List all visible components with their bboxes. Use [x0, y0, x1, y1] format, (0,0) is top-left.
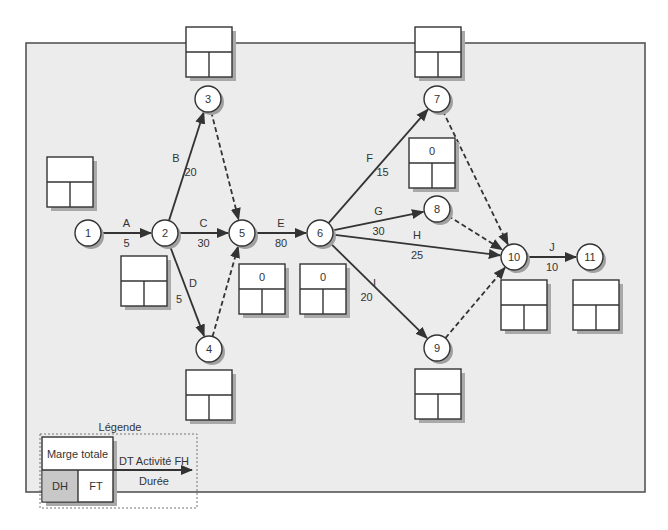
legend-arrow-top: DT Activité FH — [119, 455, 189, 467]
legend-ft: FT — [89, 480, 103, 492]
activity-duration: 5 — [123, 237, 129, 249]
activity-duration: 15 — [376, 166, 388, 178]
node-box-3 — [186, 27, 236, 81]
node-box-8: 0 — [409, 138, 459, 192]
activity-name: G — [374, 205, 383, 217]
node-number: 4 — [206, 343, 212, 355]
legend-dh: DH — [52, 480, 68, 492]
node-number: 10 — [508, 251, 520, 263]
activity-duration: 80 — [275, 237, 287, 249]
node-box-7 — [415, 27, 465, 81]
activity-name: B — [172, 152, 179, 164]
node-box-10 — [501, 280, 551, 334]
activity-name: F — [366, 152, 373, 164]
node-number: 8 — [434, 203, 440, 215]
activity-name: C — [200, 217, 208, 229]
marge-totale-value: 0 — [259, 271, 265, 283]
activity-duration: 5 — [176, 293, 182, 305]
marge-totale-value: 0 — [429, 145, 435, 157]
node-box-5: 0 — [239, 264, 289, 318]
activity-name: I — [373, 277, 376, 289]
node-number: 11 — [584, 251, 595, 263]
legend-title: Légende — [99, 421, 142, 433]
activity-duration: 30 — [372, 225, 384, 237]
node-box-1 — [47, 157, 97, 211]
activity-duration: 25 — [411, 249, 423, 261]
node-box-6: 0 — [300, 264, 350, 318]
activity-duration: 10 — [546, 261, 558, 273]
node-box-2 — [121, 256, 171, 310]
node-box-9 — [415, 369, 465, 423]
node-number: 2 — [162, 227, 168, 239]
legend-arrow-bottom: Durée — [139, 475, 169, 487]
activity-duration: 20 — [184, 166, 196, 178]
marge-totale-value: 0 — [320, 271, 326, 283]
activity-duration: 30 — [197, 237, 209, 249]
activity-name: A — [123, 217, 131, 229]
legend-marge-totale: Marge totale — [47, 448, 108, 460]
node-box-11 — [573, 280, 623, 334]
activity-name: H — [413, 229, 421, 241]
node-number: 6 — [317, 227, 323, 239]
activity-duration: 20 — [360, 291, 372, 303]
node-number: 9 — [434, 342, 440, 354]
node-number: 3 — [205, 93, 211, 105]
activity-name: E — [277, 217, 284, 229]
pert-network-diagram: A5B20C30D5E80F15G30H25I20J10 000 1234567… — [0, 0, 668, 530]
activity-name: D — [189, 277, 197, 289]
node-box-4 — [186, 370, 236, 424]
node-number: 1 — [85, 227, 91, 239]
node-number: 7 — [434, 93, 440, 105]
activity-name: J — [549, 241, 555, 253]
node-number: 5 — [239, 227, 245, 239]
